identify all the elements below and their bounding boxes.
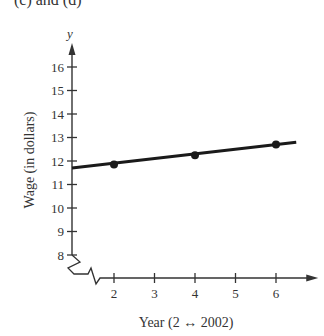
y-tick-label: 9 bbox=[58, 224, 65, 239]
y-tick-label: 11 bbox=[51, 177, 64, 192]
trend-line bbox=[72, 142, 296, 168]
y-tick-label: 15 bbox=[51, 83, 64, 98]
x-tick-label: 5 bbox=[232, 286, 239, 301]
y-tick-label: 8 bbox=[58, 248, 65, 263]
y-tick-label: 13 bbox=[51, 130, 64, 145]
x-tick-label: 3 bbox=[151, 286, 158, 301]
wage-chart: yt891011121314151623456Year (2 ↔ 2002)Wa… bbox=[0, 0, 324, 336]
x-axis-arrow-icon bbox=[306, 275, 318, 282]
x-tick-label: 6 bbox=[273, 286, 280, 301]
y-axis-title: Wage (in dollars) bbox=[22, 111, 38, 208]
data-point bbox=[272, 141, 280, 149]
x-axis-title: Year (2 ↔ 2002) bbox=[139, 315, 234, 331]
y-tick-label: 12 bbox=[51, 154, 64, 169]
y-axis-break bbox=[68, 255, 80, 274]
y-tick-label: 14 bbox=[51, 107, 65, 122]
y-axis-arrow-icon bbox=[69, 43, 76, 55]
data-point bbox=[110, 161, 118, 169]
x-tick-label: 2 bbox=[111, 286, 118, 301]
y-variable-label: y bbox=[65, 26, 73, 41]
y-tick-label: 10 bbox=[51, 201, 64, 216]
data-point bbox=[191, 151, 199, 159]
y-tick-label: 16 bbox=[51, 60, 65, 75]
x-tick-label: 4 bbox=[192, 286, 199, 301]
